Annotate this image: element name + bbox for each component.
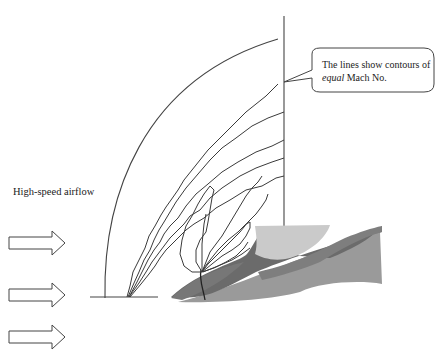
arrow-icon-3 — [9, 325, 65, 349]
callout-suffix: Mach No. — [344, 72, 387, 83]
mach-contour-diagram — [0, 0, 440, 358]
arrow-icon-2 — [9, 283, 65, 307]
callout-line1: The lines show contours of — [322, 59, 430, 70]
airflow-label: High-speed airflow — [13, 186, 94, 197]
airflow-arrows — [9, 231, 65, 349]
callout-text: The lines show contours of equal Mach No… — [322, 58, 434, 84]
arrow-icon-1 — [9, 231, 65, 255]
callout-emphasis: equal — [322, 72, 344, 83]
